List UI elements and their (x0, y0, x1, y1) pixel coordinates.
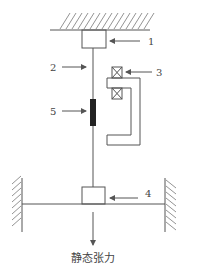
part1-label: 1 (148, 36, 154, 47)
part5-element (90, 99, 96, 126)
hatch-line (144, 13, 154, 29)
part4-bottom-clamp (82, 187, 105, 204)
right-wall-hatching (166, 180, 176, 230)
hatch-line (60, 13, 70, 29)
coil-lower (112, 88, 122, 99)
coil-upper (112, 67, 122, 78)
part5-label: 5 (50, 106, 56, 117)
hatch-line (102, 13, 112, 29)
diagram-canvas: 1 2 5 3 4 静态张力 (0, 0, 212, 270)
part1-top-clamp (82, 30, 106, 48)
part4-label: 4 (145, 188, 151, 199)
part3-c-frame (107, 67, 140, 145)
hatch-line (66, 13, 76, 29)
hatch-line (108, 13, 118, 29)
hatch-line (84, 13, 94, 29)
hatch-line (132, 13, 142, 29)
hatch-line (120, 13, 130, 29)
hatch-line (138, 13, 148, 29)
hatch-line (90, 13, 100, 29)
part3-label: 3 (156, 67, 162, 78)
ceiling-hatching (60, 13, 154, 29)
caption-static-tension: 静态张力 (71, 251, 115, 265)
ceiling-support (50, 13, 154, 30)
part2-label: 2 (50, 62, 56, 73)
left-wall (12, 176, 22, 232)
hatch-line (78, 13, 88, 29)
right-wall (165, 178, 176, 232)
hatch-line (126, 13, 136, 29)
hatch-line (72, 13, 82, 29)
left-wall-hatching (12, 176, 21, 226)
hatch-line (114, 13, 124, 29)
hatch-line (96, 13, 106, 29)
